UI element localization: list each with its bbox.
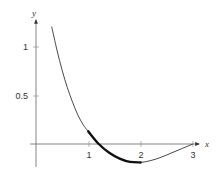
x-tick-label-3: 3 — [190, 150, 195, 160]
highlighted-segment — [88, 131, 140, 162]
x-axis-label: x — [204, 139, 209, 149]
y-tick-label-1: 1 — [23, 42, 28, 52]
y-axis-label: y — [31, 8, 36, 18]
chart: 1 2 3 0.5 1 x y — [0, 0, 221, 177]
curve-line — [52, 27, 193, 163]
y-tick-label-05: 0.5 — [15, 91, 28, 101]
x-tick-label-2: 2 — [138, 150, 143, 160]
x-tick-label-1: 1 — [86, 150, 91, 160]
